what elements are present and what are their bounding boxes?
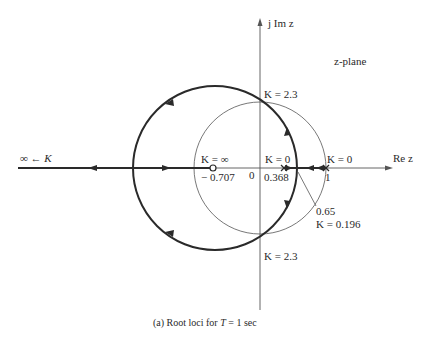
plane-label: z-plane <box>334 55 366 67</box>
figure-caption: (a) Root loci for T = 1 sec <box>153 317 257 329</box>
asymptote-label: ∞ ← K <box>20 152 52 164</box>
zero-gain-label: K = ∞ <box>201 153 229 165</box>
pole2-gain-label: K = 0 <box>327 153 353 165</box>
breakaway-gain-label: K = 0.196 <box>316 218 361 230</box>
root-locus-diagram: j Im z z-plane Re z ∞ ← K K = 2.3 K = 2.… <box>0 0 435 348</box>
imag-axis-label: j Im z <box>267 17 294 29</box>
arrow-left-pole2-icon <box>316 165 324 171</box>
pole2-value-label: 1 <box>325 171 331 183</box>
crossing-upper-label: K = 2.3 <box>264 88 298 100</box>
pole1-gain-label: K = 0 <box>265 153 291 165</box>
arrow-right-icon <box>162 165 171 171</box>
breakaway-leader <box>298 172 316 206</box>
real-axis-label: Re z <box>393 152 413 164</box>
real-axis-arrow-icon <box>385 166 393 171</box>
arrow-left-pole-icon <box>306 165 314 171</box>
arrow-left-icon <box>88 165 97 171</box>
imaginary-axis-arrow-icon <box>258 18 263 26</box>
pole1-value-label: 0.368 <box>264 171 289 183</box>
breakaway-value-label: 0.65 <box>316 205 336 217</box>
caption-prefix: (a) Root loci for <box>153 317 220 329</box>
crossing-lower-label: K = 2.3 <box>264 250 298 262</box>
caption-suffix: = 1 sec <box>226 317 257 328</box>
origin-label: 0 <box>249 169 255 181</box>
zero-value-label: − 0.707 <box>201 171 235 183</box>
